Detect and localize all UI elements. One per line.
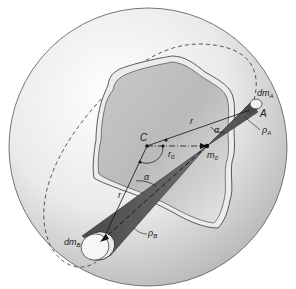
label-a: A	[259, 108, 267, 119]
sphere-gravitation-diagram: dmA A ρA r α C r0 m0 α r ρB dmB	[0, 0, 296, 289]
label-alpha-lower: α	[144, 172, 150, 182]
label-c: C	[140, 132, 148, 143]
label-alpha-upper: α	[214, 125, 220, 135]
point-mid	[162, 145, 165, 148]
point-c	[145, 144, 149, 148]
point-m0	[205, 144, 209, 148]
point-upper	[165, 139, 168, 142]
point-lower	[139, 161, 142, 164]
